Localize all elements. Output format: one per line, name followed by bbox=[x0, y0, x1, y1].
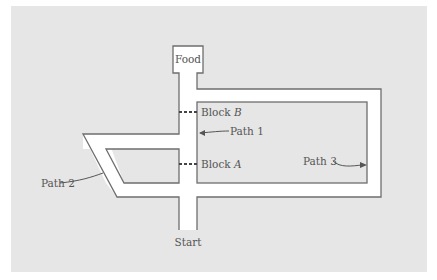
start-label: Start bbox=[175, 236, 203, 248]
path2-label: Path 2 bbox=[41, 177, 75, 189]
maze-diagram: Food Block B Path 1 Block A Path 3 Path … bbox=[0, 0, 437, 280]
block-a-label: Block A bbox=[201, 158, 242, 170]
diagram-panel bbox=[11, 6, 427, 272]
path3-label: Path 3 bbox=[303, 155, 337, 167]
block-b-label: Block B bbox=[201, 106, 242, 118]
path1-label: Path 1 bbox=[230, 125, 264, 137]
food-label: Food bbox=[175, 53, 201, 65]
